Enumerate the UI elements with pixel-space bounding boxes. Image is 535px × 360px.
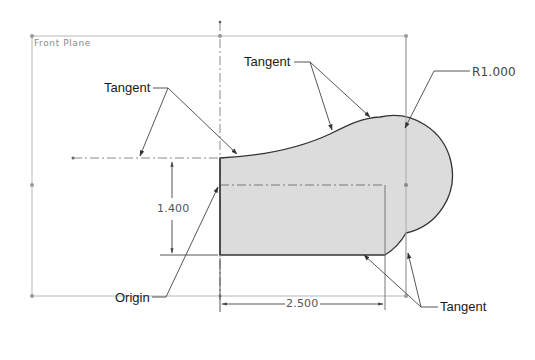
tangent-callout-top: Tangent [244,55,290,68]
tangent-callout-left: Tangent [104,81,150,94]
sketch-canvas: Front Plane Tangent Tangent R1.000 Origi… [0,0,535,360]
radius-dimension-label[interactable]: R1.000 [472,66,516,78]
origin-callout: Origin [115,291,150,304]
height-dimension-value[interactable]: 1.400 [157,203,190,214]
width-dimension-value[interactable]: 2.500 [286,298,319,309]
front-plane-label: Front Plane [34,39,91,48]
tangent-callout-bottom: Tangent [440,300,486,313]
